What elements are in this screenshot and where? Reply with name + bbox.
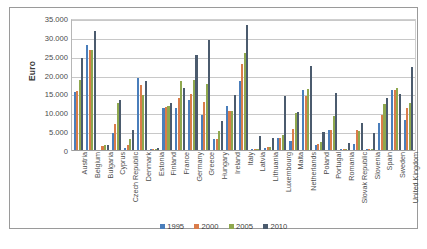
bar [94,31,96,150]
bar-group [275,19,288,150]
x-axis-tick-label: Slovenia [373,152,382,180]
x-axis-tick-label: Italy [246,152,255,165]
x-axis-tick-label: Poland [322,152,331,174]
x-axis-tick-label: Malta [296,152,305,170]
x-axis-tick-label: Sweden [398,152,407,178]
plot-area [71,19,416,151]
bar [246,25,248,150]
bar-group [326,19,339,150]
x-axis-tick-label: Greece [207,152,216,176]
bar [310,66,312,150]
bar [119,100,121,150]
legend-label: 1995 [167,222,184,231]
legend-label: 2000 [202,222,219,231]
x-axis-tick-label: Hungary [220,152,229,179]
bar-group [97,19,110,150]
bar-group [263,19,276,150]
bar-group [390,19,403,150]
bar-group [250,19,263,150]
bar [145,81,147,150]
bar [411,67,413,150]
x-axis-tick-label: Belgium [93,152,102,178]
bar [234,95,236,150]
bar [132,130,134,150]
bar [81,58,83,150]
x-axis-tick-label: Czech Republic [131,152,140,202]
x-axis-tick-label: Latvia [258,152,267,171]
bar-group [136,19,149,150]
x-axis-tick-label: Bulgaria [106,152,115,178]
legend-label: 2010 [270,222,287,231]
x-axis-tick-label: Luxembourg [284,152,293,192]
bar [284,96,286,150]
x-axis-tick-label: Germany [195,152,204,182]
bar [259,136,261,150]
bar-group [85,19,98,150]
y-axis-tick-label: 10.000 [24,109,68,118]
x-axis-tick-label: Portugal [334,152,343,179]
x-axis-tick-label: Estonia [157,152,166,176]
bar [348,143,350,150]
y-axis-tick-label: 30.000 [24,33,68,42]
y-axis-tick-label: 35.000 [24,15,68,24]
bar-group [351,19,364,150]
bar [221,121,223,150]
bar-group [199,19,212,150]
bar-group [301,19,314,150]
x-axis-tick-label: Austria [80,152,89,174]
y-axis-tick-label: 20.000 [24,71,68,80]
bar [386,98,388,150]
bar-group [364,19,377,150]
chart-figure: Euro 05.00010.00015.00020.00025.00030.00… [0,0,427,249]
legend-item[interactable]: 1995 [160,222,184,231]
x-axis-tick-label: Denmark [144,152,153,181]
chart-legend: 1995200020052010 [10,222,427,231]
chart-frame: Euro 05.00010.00015.00020.00025.00030.00… [9,7,418,229]
bar [170,103,172,150]
bar [272,138,274,150]
bar [361,123,363,150]
legend-item[interactable]: 2005 [229,222,253,231]
bar [399,94,401,150]
legend-item[interactable]: 2000 [194,222,218,231]
bar-group [224,19,237,150]
y-axis-tick-label: 15.000 [24,90,68,99]
bar [208,40,210,150]
x-axis-tick-labels: AustriaBelgiumBulgariaCyprusCzech Republ… [71,152,416,222]
legend-item[interactable]: 2010 [263,222,287,231]
bar-group [148,19,161,150]
bar-group [339,19,352,150]
x-axis-tick-label: Netherlands [309,152,318,191]
legend-swatch-icon [229,224,234,229]
bar [335,93,337,150]
x-axis-tick-label: Spain [385,152,394,170]
bar [373,133,375,150]
x-axis-tick-label: United Kingdom [411,152,420,203]
bar [107,145,109,150]
legend-swatch-icon [263,224,268,229]
bar-group [186,19,199,150]
x-axis-tick-label: Finland [169,152,178,176]
bar [183,88,185,150]
bar-group [174,19,187,150]
bar [157,148,159,150]
bar-group [123,19,136,150]
legend-swatch-icon [194,224,199,229]
y-axis-tick-labels: 05.00010.00015.00020.00025.00030.00035.0… [24,8,68,228]
bar-group [72,19,85,150]
y-axis-tick-label: 25.000 [24,52,68,61]
x-axis-tick-label: Lithuania [271,152,280,181]
x-axis-tick-label: Slovak Republic [360,152,369,204]
x-axis-tick-label: Ireland [233,152,242,174]
y-axis-tick-label: 5.000 [24,128,68,137]
x-axis-tick-label: Romania [347,152,356,181]
bar-group [313,19,326,150]
y-axis-tick-label: 0 [24,147,68,156]
legend-swatch-icon [160,224,165,229]
bar-group [161,19,174,150]
bar-group [377,19,390,150]
bar-group [212,19,225,150]
bar [322,132,324,150]
bar-group [237,19,250,150]
bar-group [110,19,123,150]
